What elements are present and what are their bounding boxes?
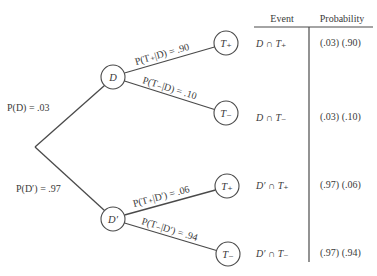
edge-label-p-Tplus-given-Dprime: P(T₊|D′) = .06 [132, 183, 191, 210]
table-header-probability: Probability [320, 13, 364, 24]
node-label: D′ [107, 214, 119, 225]
edge-root-to-Dprime [35, 147, 105, 211]
table-cell-event: D′ ∩ T₊ [255, 180, 288, 191]
table-row: D′ ∩ T₊ (.97) (.06) [255, 179, 361, 191]
table-cell-event: D ∩ T₋ [255, 112, 286, 123]
node-Tplus-given-D: T₊ [214, 31, 238, 55]
tree-edges [35, 47, 217, 251]
node-Tminus-given-Dprime: T₋ [216, 242, 240, 266]
probability-tree-diagram: D D′ T₊ T₋ T₊ T₋ P(D) = .03 P(D′) = .97 … [0, 0, 377, 276]
edge-label-p-Dprime: P(D′) = .97 [16, 183, 61, 195]
edge-root-to-D [35, 86, 105, 148]
node-label: T₊ [220, 38, 231, 49]
node-label: T₊ [221, 181, 232, 192]
table-cell-probability: (.03) (.90) [320, 37, 361, 49]
node-Tplus-given-Dprime: T₊ [215, 174, 239, 198]
results-table: Event Probability D ∩ T₊ (.03) (.90) D ∩… [254, 13, 373, 262]
edge-label-p-Tplus-given-D: P(T₊|D) = .90 [134, 41, 191, 68]
table-row: D ∩ T₊ (.03) (.90) [255, 37, 361, 49]
table-row: D ∩ T₋ (.03) (.10) [255, 111, 361, 123]
table-cell-probability: (.97) (.06) [320, 179, 361, 191]
edge-label-p-Tminus-given-Dprime: P(T₋|D′) = .94 [140, 215, 199, 243]
table-header-event: Event [270, 13, 294, 24]
node-label: D [108, 72, 117, 83]
table-row: D′ ∩ T₋ (.97) (.94) [255, 247, 361, 259]
node-Tminus-given-D: T₋ [214, 101, 238, 125]
table-cell-probability: (.97) (.94) [320, 247, 361, 259]
table-cell-event: D ∩ T₊ [255, 38, 286, 49]
table-cell-probability: (.03) (.10) [320, 111, 361, 123]
node-label: T₋ [220, 108, 231, 119]
node-label: T₋ [222, 249, 233, 260]
table-cell-event: D′ ∩ T₋ [255, 248, 288, 259]
edge-label-p-D: P(D) = .03 [7, 102, 50, 114]
node-Dprime: D′ [101, 207, 125, 231]
node-D: D [101, 65, 125, 89]
